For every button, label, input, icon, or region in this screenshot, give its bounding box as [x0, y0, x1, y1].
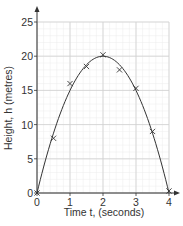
- axes: [35, 6, 181, 196]
- x-tick-label: 4: [166, 196, 172, 208]
- x-axis-label: Time t, (seconds): [64, 206, 145, 218]
- y-axis-arrow-icon: [35, 6, 40, 12]
- x-axis-arrow-icon: [174, 191, 180, 196]
- height-time-chart: 01234 0510152025 Time t, (seconds) Heigh…: [0, 0, 183, 226]
- y-axis-label: Height, h (metres): [2, 66, 14, 150]
- y-tick-label: 25: [21, 16, 33, 28]
- x-tick-label: 0: [34, 196, 40, 208]
- y-tick-labels: 0510152025: [21, 16, 37, 199]
- y-tick-label: 5: [27, 153, 33, 165]
- y-tick-label: 20: [21, 50, 33, 62]
- y-tick-label: 10: [21, 119, 33, 131]
- y-tick-label: 0: [27, 187, 33, 199]
- y-tick-label: 15: [21, 84, 33, 96]
